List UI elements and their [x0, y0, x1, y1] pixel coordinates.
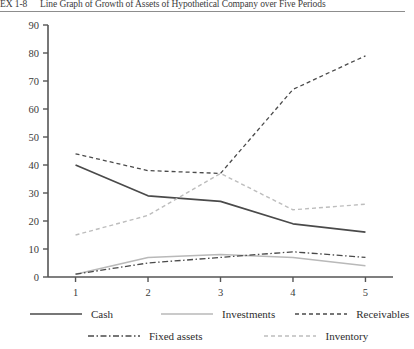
legend-swatch-cash	[30, 309, 82, 319]
legend-swatch-investments	[161, 309, 213, 319]
y-axis-tick-label: 0	[34, 272, 39, 283]
legend-item-investments[interactable]: Investments	[161, 308, 275, 320]
y-axis-tick-label: 10	[29, 244, 40, 255]
legend-item-receivables[interactable]: Receivables	[295, 308, 409, 320]
legend-label-inventory: Inventory	[325, 330, 368, 342]
x-axis-tick-label: 2	[145, 287, 150, 298]
x-axis-tick-label: 4	[290, 287, 296, 298]
legend-swatch-fixed-assets	[88, 331, 140, 341]
legend-swatch-inventory	[264, 331, 316, 341]
legend-label-receivables: Receivables	[356, 308, 409, 320]
legend-item-inventory[interactable]: Inventory	[264, 330, 368, 342]
series-line-cash[interactable]	[76, 165, 366, 232]
y-axis-tick-label: 70	[29, 76, 40, 87]
legend-row-top: Cash Investments Receivables	[0, 304, 414, 324]
chart-legend: Cash Investments Receivables Fixed asset…	[0, 302, 405, 349]
y-axis-tick-label: 20	[29, 216, 40, 227]
x-axis-tick-label: 1	[73, 287, 78, 298]
y-axis-tick-label: 50	[29, 132, 40, 143]
y-axis-tick-label: 40	[29, 160, 40, 171]
legend-item-fixed-assets[interactable]: Fixed assets	[88, 330, 202, 342]
legend-label-investments: Investments	[222, 308, 275, 320]
figure-caption: EX 1-8Line Graph of Growth of Assets of …	[0, 0, 405, 9]
y-axis-tick-label: 90	[29, 20, 40, 31]
chart-canvas: 010203040506070809012345	[0, 12, 405, 304]
legend-swatch-receivables	[295, 309, 347, 319]
x-axis-tick-label: 3	[218, 287, 223, 298]
figure-title-text: Line Graph of Growth of Assets of Hypoth…	[40, 0, 325, 9]
y-axis-tick-label: 30	[29, 188, 40, 199]
series-line-receivables[interactable]	[76, 56, 366, 174]
line-chart-plot: 010203040506070809012345	[0, 12, 405, 304]
x-axis-tick-label: 5	[363, 287, 368, 298]
legend-label-fixed-assets: Fixed assets	[149, 330, 202, 342]
legend-item-cash[interactable]: Cash	[30, 308, 113, 320]
figure-number: EX 1-8	[0, 0, 27, 9]
legend-row-bottom: Fixed assets Inventory	[0, 326, 414, 346]
y-axis-tick-label: 60	[29, 104, 40, 115]
y-axis-tick-label: 80	[29, 48, 40, 59]
legend-label-cash: Cash	[91, 308, 113, 320]
